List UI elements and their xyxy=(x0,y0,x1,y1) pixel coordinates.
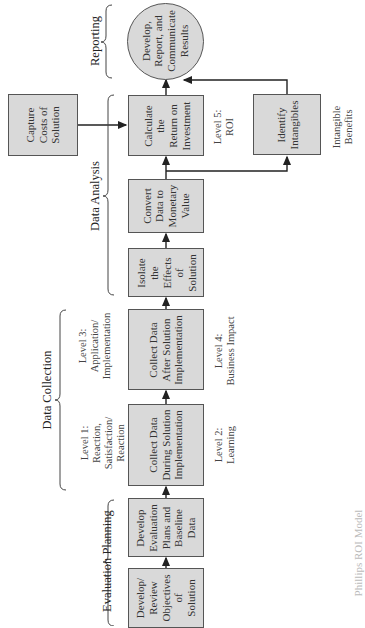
report-results-circle: Develop, Report, and Communicate Results xyxy=(127,3,204,80)
level-3-label: Level 3: Application/ Implementation xyxy=(74,303,116,389)
box-label: Convert Data to Monetary Value xyxy=(128,179,204,233)
develop-review-objectives-box: Develop/ Review Objectives of Solution xyxy=(128,568,204,628)
figure-caption: Phillips ROI Model xyxy=(351,488,365,618)
level-5-label: Level 5: ROI xyxy=(208,99,240,155)
box-label: Collect Data After Solution Implementati… xyxy=(128,309,204,391)
section-data-collection: Data Collection xyxy=(38,330,56,450)
calculate-roi-box: Calculate the Return on Investment xyxy=(128,95,204,156)
level-4-label: Level 4: Business Impact xyxy=(208,306,242,396)
intangible-benefits-label: Intangible Benefits xyxy=(326,92,360,162)
box-label: Isolate the Effects of Solution xyxy=(128,248,204,297)
collect-data-after-box: Collect Data After Solution Implementati… xyxy=(128,309,204,390)
identify-intangibles-box: Identify Intangibles xyxy=(253,94,321,155)
section-data-analysis: Data Analysis xyxy=(86,146,104,246)
box-label: Identify Intangibles xyxy=(253,94,321,155)
capture-costs-box: Capture Costs of Solution xyxy=(8,94,78,156)
box-label: Collect Data During Solution Implementat… xyxy=(128,404,204,486)
develop-evaluation-plans-box: Develop Evaluation Plans and Baseline Da… xyxy=(128,498,204,557)
box-label: Develop Evaluation Plans and Baseline Da… xyxy=(128,499,204,557)
section-evaluation-planning: Evaluation Planning xyxy=(98,501,116,621)
box-label: Capture Costs of Solution xyxy=(8,94,78,156)
circle-label: Develop, Report, and Communicate Results xyxy=(128,4,202,78)
box-label: Develop/ Review Objectives of Solution xyxy=(128,569,204,627)
box-label: Calculate the Return on Investment xyxy=(128,95,204,156)
convert-data-box: Convert Data to Monetary Value xyxy=(128,179,204,233)
level-2-label: Level 2: Learning xyxy=(208,415,242,475)
collect-data-during-box: Collect Data During Solution Implementat… xyxy=(128,404,204,486)
section-reporting: Reporting xyxy=(86,1,104,81)
level-1-label: Level 1: Reaction, Satisfaction/ Reactio… xyxy=(76,404,130,482)
isolate-effects-box: Isolate the Effects of Solution xyxy=(128,248,204,297)
